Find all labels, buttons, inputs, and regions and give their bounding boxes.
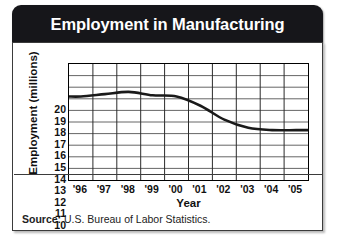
y-tick-label: 14 [46,174,66,184]
y-tick-label: 15 [46,162,66,172]
y-tick-label: 12 [46,197,66,207]
x-axis-title: Year [68,197,309,209]
source-text: U.S. Bureau of Labor Statistics. [64,213,211,225]
y-axis-ticks: 2019181716151413121110 [46,89,66,211]
plot-svg [69,64,308,180]
y-tick-label: 16 [46,150,66,160]
source-divider [14,174,323,175]
y-tick-label: 18 [46,127,66,137]
y-tick-label: 17 [46,139,66,149]
y-tick-label: 13 [46,185,66,195]
chart-title-bar: Employment in Manufacturing [12,5,323,43]
y-tick-label: 19 [46,116,66,126]
source-note: Source: U.S. Bureau of Labor Statistics. [22,213,211,225]
x-tick-label: '05 [280,183,310,195]
source-label: Source: [22,213,61,225]
chart-title: Employment in Manufacturing [12,5,323,43]
x-axis-ticks: '96'97'98'99'00'01'02'03'04'05 [68,183,309,197]
y-tick-label: 20 [46,104,66,114]
y-axis-title: Employment (millions) [27,49,39,177]
plot-area [68,63,309,181]
chart-panel: Employment (millions) 201918171615141312… [12,42,323,231]
chart-figure: Employment in Manufacturing Employment (… [12,5,323,231]
